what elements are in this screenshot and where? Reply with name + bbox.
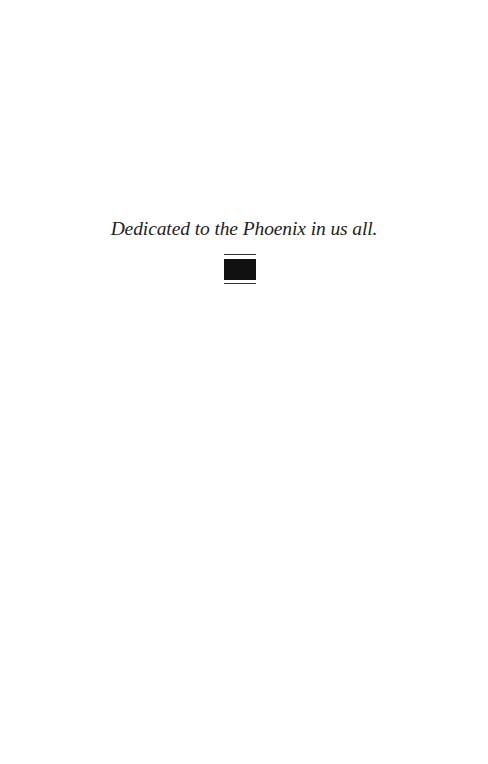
ornament-block <box>224 259 256 280</box>
book-page: Dedicated to the Phoenix in us all. <box>0 0 488 764</box>
ornament-bottom-rule <box>224 283 256 284</box>
dedication-text: Dedicated to the Phoenix in us all. <box>0 216 488 242</box>
ornament-top-rule <box>224 254 256 255</box>
section-break-ornament-icon <box>224 254 256 284</box>
